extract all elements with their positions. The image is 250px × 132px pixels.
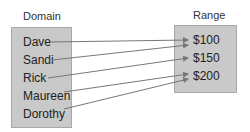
arrow-dave-100	[50, 40, 188, 42]
arrow-sandi-100	[52, 45, 188, 60]
arrow-rick-150	[48, 58, 188, 78]
mapping-arrows	[0, 0, 250, 132]
